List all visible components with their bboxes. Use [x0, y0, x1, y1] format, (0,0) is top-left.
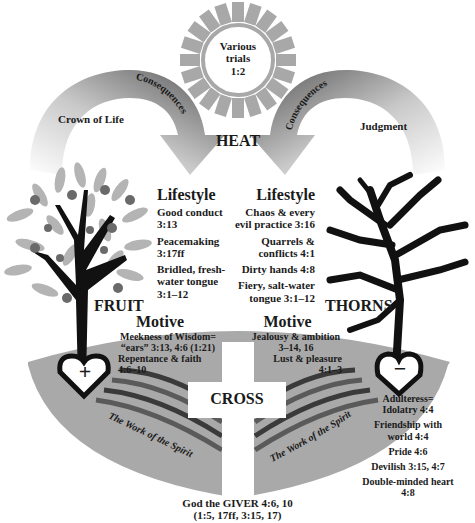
vice-line: Double-minded heart	[358, 476, 458, 487]
vice-item: Devilish 3:15, 4:7	[358, 461, 458, 472]
lifestyle-line: evil practice 3:16	[225, 218, 315, 230]
right-motive: Motive Jealousy & ambition 3–14, 16 Lust…	[250, 313, 350, 376]
right-lifestyle-heading: Lifestyle	[225, 186, 315, 204]
sun-text-line: trials	[208, 52, 268, 64]
vice-line: Pride 4:6	[358, 446, 458, 457]
motive-line: 4:1–3	[250, 364, 342, 375]
left-motive-heading: Motive	[118, 313, 202, 331]
crown-of-life-label: Crown of Life	[58, 113, 124, 125]
footer-line: (1:5, 17ff, 3:15, 17)	[160, 509, 315, 521]
vice-item: Friendship with world 4:4	[358, 419, 458, 441]
lifestyle-item: Chaos & every evil practice 3:16	[225, 206, 315, 231]
lifestyle-item: Quarrels & conflicts 4:1	[225, 235, 315, 260]
vice-list: Adulteress= Idolatry 4:4 Friendship with…	[358, 393, 458, 503]
heat-label: HEAT	[200, 132, 276, 150]
cross-label: CROSS	[188, 390, 286, 408]
lifestyle-line: tongue 3:1–12	[225, 292, 315, 304]
motive-line: “ears” 3:13, 4:6 (1:21)	[118, 342, 218, 353]
lifestyle-line: Fiery, salt-water	[225, 279, 315, 291]
left-motive: Motive Meekness of Wisdom= “ears” 3:13, …	[118, 313, 238, 376]
motive-line: 3–14, 16	[250, 342, 342, 353]
vice-item: Adulteress= Idolatry 4:4	[358, 393, 458, 415]
motive-line: Meekness of Wisdom=	[118, 331, 218, 342]
sun-text-line: 1:2	[208, 65, 268, 77]
motive-line: Lust & pleasure	[250, 353, 342, 364]
footer-line: God the GIVER 4:6, 10	[160, 497, 315, 509]
judgment-label: Judgment	[360, 120, 407, 132]
footer-text: God the GIVER 4:6, 10 (1:5, 17ff, 3:15, …	[160, 497, 315, 522]
lifestyle-line: Dirty hands 4:8	[225, 263, 315, 275]
vice-item: Double-minded heart 4:8	[358, 476, 458, 498]
vice-line: Adulteress=	[358, 393, 458, 404]
sun-text-line: Various	[208, 40, 268, 52]
right-lifestyle: Lifestyle Chaos & every evil practice 3:…	[225, 186, 315, 308]
vice-line: Friendship with	[358, 419, 458, 430]
right-motive-heading: Motive	[250, 313, 325, 331]
vice-item: Pride 4:6	[358, 446, 458, 457]
vice-line: Idolatry 4:4	[358, 404, 458, 415]
lifestyle-line: Quarrels &	[225, 235, 315, 247]
sun-text: Various trials 1:2	[208, 40, 268, 77]
lifestyle-item: Dirty hands 4:8	[225, 263, 315, 275]
motive-line: Jealousy & ambition	[250, 331, 342, 342]
lifestyle-item: Fiery, salt-water tongue 3:1–12	[225, 279, 315, 304]
vice-line: Devilish 3:15, 4:7	[358, 461, 458, 472]
minus-symbol: −	[390, 357, 410, 382]
lifestyle-line: conflicts 4:1	[225, 247, 315, 259]
vice-line: 4:8	[358, 487, 458, 498]
vice-line: world 4:4	[358, 431, 458, 442]
plus-symbol: +	[75, 360, 95, 385]
motive-line: 4:6–10	[118, 364, 238, 375]
lifestyle-line: Chaos & every	[225, 206, 315, 218]
motive-line: Repentance & faith	[118, 353, 238, 364]
